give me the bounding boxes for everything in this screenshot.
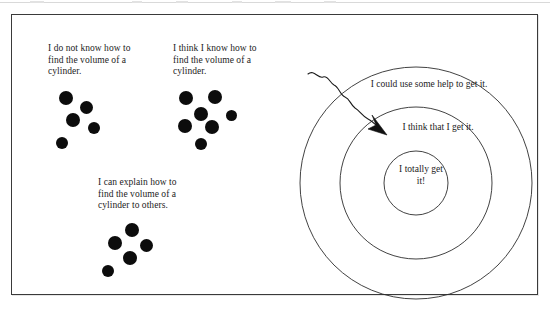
scan-artifact-speck (132, 1, 142, 3)
dot (56, 137, 68, 149)
dot (108, 236, 122, 250)
dot-cluster-novice (51, 89, 131, 159)
cluster-caption-novice: I do not know how to find the volume of … (48, 43, 131, 78)
scan-artifact-speck (324, 1, 336, 3)
dot (80, 101, 93, 114)
ring-label-middle: I think that I get it. (368, 122, 508, 134)
dot (102, 265, 114, 277)
concentric-rings-diagram: I could use some help to get it. I think… (292, 51, 542, 307)
figure-frame: I do not know how to find the volume of … (11, 14, 538, 295)
dot (194, 107, 208, 121)
ring-label-outer: I could use some help to get it. (334, 79, 524, 91)
dot (205, 120, 219, 134)
cluster-block-developing: I think I know how to find the volume of… (173, 43, 257, 78)
dot (88, 122, 100, 134)
dot (123, 251, 137, 265)
ring-label-inner: I totally get it! (376, 164, 466, 187)
dot (140, 239, 153, 252)
dot (195, 138, 207, 150)
cluster-block-novice: I do not know how to find the volume of … (48, 43, 131, 78)
cluster-caption-expert: I can explain how to find the volume of … (98, 177, 177, 212)
scan-artifact-speck (232, 1, 242, 3)
dot (59, 91, 73, 105)
scan-artifact-speck (30, 1, 44, 3)
cluster-block-expert: I can explain how to find the volume of … (98, 177, 177, 212)
dot (226, 110, 237, 121)
dot (66, 113, 80, 127)
dot-cluster-expert (101, 223, 181, 288)
scan-artifact-speck (176, 1, 188, 3)
dot (179, 91, 193, 105)
scan-artifact-speck (275, 1, 291, 3)
dot-cluster-developing (175, 89, 265, 159)
dot (178, 119, 192, 133)
dot (208, 90, 222, 104)
dot (125, 223, 139, 237)
cluster-caption-developing: I think I know how to find the volume of… (173, 43, 257, 78)
